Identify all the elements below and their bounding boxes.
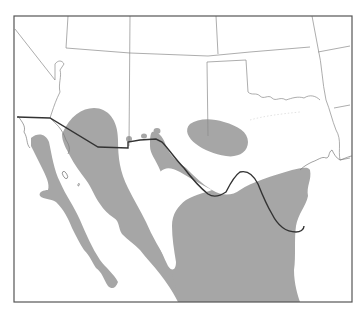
range-nm-outlier [187, 119, 248, 156]
az-west-border [50, 61, 64, 118]
ks-mo-border [312, 16, 318, 48]
map-canvas [0, 0, 364, 314]
ca-nv-border [15, 29, 55, 80]
island-tiburon [78, 183, 80, 186]
range-dot-3 [154, 128, 161, 134]
state-boundaries [15, 16, 352, 186]
pecos-river-dotted [250, 112, 300, 120]
az-ut-border [66, 47, 310, 56]
island-angel-de-la-guarda [61, 171, 68, 180]
range-map [0, 0, 364, 314]
nv-ut-border [66, 16, 68, 48]
ok-ar-border [318, 48, 326, 100]
mo-ar-border [318, 46, 350, 52]
ok-panhandle [207, 60, 248, 92]
co-ks-border [216, 16, 218, 54]
texas-gulf-coast [300, 150, 352, 170]
ar-la-border [334, 105, 350, 108]
range-dot-2 [141, 134, 147, 139]
az-nm-border [129, 16, 130, 146]
red-river [248, 92, 320, 100]
range-areas [31, 108, 310, 302]
sabine-river [326, 100, 340, 160]
gulf-of-california-north-coast [18, 116, 30, 148]
